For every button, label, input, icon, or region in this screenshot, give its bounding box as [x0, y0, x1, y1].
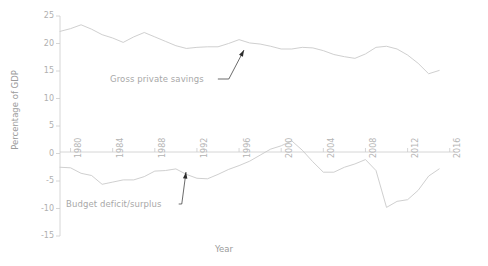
y-axis-title: Percentage of GDP: [10, 62, 20, 158]
series-line-gross-private-savings: [60, 25, 439, 74]
x-tick-label: 1984: [116, 138, 125, 158]
x-tick-label: 2000: [285, 138, 294, 158]
chart-figure: Percentage of GDP Year 2520151050-5-10-1…: [0, 0, 488, 266]
x-tick-label: 2016: [453, 138, 462, 158]
y-tick-label: 20: [22, 39, 54, 48]
x-tick-label: 2012: [411, 138, 420, 158]
x-tick-label: 2008: [369, 138, 378, 158]
x-tick-label: 1988: [158, 138, 167, 158]
y-tick-label: 15: [22, 66, 54, 75]
y-tick-label: 25: [22, 11, 54, 20]
x-tick-label: 1992: [200, 138, 209, 158]
x-tick-label: 1980: [74, 138, 83, 158]
y-tick-label: -10: [22, 204, 54, 213]
x-tick-label: 2004: [327, 138, 336, 158]
chart-plot-area: [0, 0, 488, 266]
budget-deficit-surplus-annotation: Budget deficit/surplus: [66, 199, 162, 209]
x-axis-title: Year: [215, 244, 233, 254]
gross-private-savings-annotation: Gross private savings: [110, 74, 204, 84]
x-tick-label: 1996: [243, 138, 252, 158]
y-tick-label: 5: [22, 121, 54, 130]
y-tick-label: 0: [22, 149, 54, 158]
y-tick-label: 10: [22, 94, 54, 103]
annotation-arrowhead-icon: [239, 50, 244, 57]
y-tick-label: -5: [22, 176, 54, 185]
y-tick-label: -15: [22, 231, 54, 240]
